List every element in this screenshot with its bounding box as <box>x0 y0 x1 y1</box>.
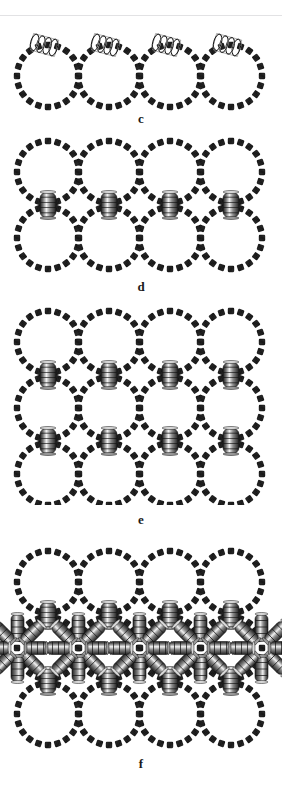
panel-f-diagram <box>0 545 282 750</box>
panel-e-diagram <box>0 305 282 505</box>
figure-root: c d e f <box>0 0 282 798</box>
panel-f: f <box>0 545 282 780</box>
panel-e: e <box>0 305 282 530</box>
panel-c: c <box>0 18 282 130</box>
panel-d: d <box>0 135 282 295</box>
panel-c-label: c <box>0 112 282 126</box>
top-divider-rule <box>0 15 282 16</box>
panel-d-label: d <box>0 280 282 294</box>
panel-c-diagram <box>0 18 282 118</box>
panel-e-canvas <box>0 305 282 505</box>
panel-d-canvas <box>0 135 282 275</box>
panel-c-canvas <box>0 18 282 118</box>
panel-f-canvas <box>0 545 282 750</box>
panel-e-label: e <box>0 513 282 527</box>
panel-d-diagram <box>0 135 282 275</box>
panel-f-label: f <box>0 757 282 771</box>
